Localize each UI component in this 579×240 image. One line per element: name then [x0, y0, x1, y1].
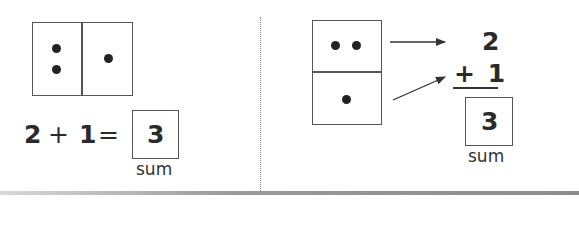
addend-2-row: + 1 — [454, 61, 507, 86]
sum-underline — [453, 87, 498, 89]
addend-1: 2 — [482, 29, 499, 54]
bottom-rule — [0, 191, 579, 195]
sum-value: 3 — [481, 109, 498, 134]
sum-label: sum — [468, 148, 504, 165]
arrow-up-right-icon — [393, 77, 445, 100]
